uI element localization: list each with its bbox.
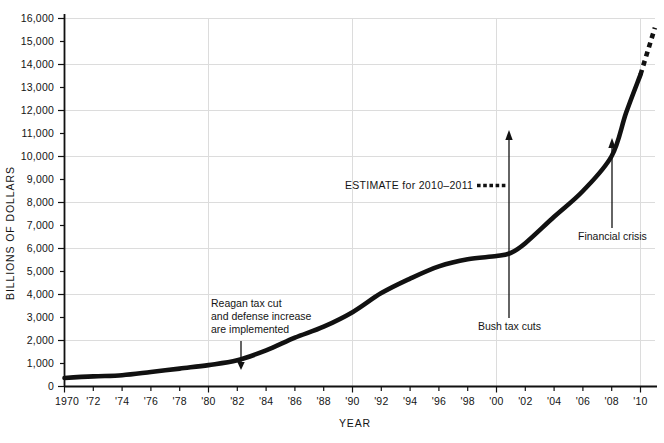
xlabel-1974: '74 [115, 395, 129, 407]
xlabel-2004: '04 [547, 395, 561, 407]
xlabel-2008: '08 [605, 395, 619, 407]
x-tick-labels-top: 1970 '72 '74 '76 '78 '80 '82 '84 '86 '88… [55, 395, 648, 407]
xlabel-2002: '02 [518, 395, 532, 407]
xlabel-1994: '94 [403, 395, 417, 407]
xlabel-1998: '98 [461, 395, 475, 407]
xlabel-1982: '82 [230, 395, 244, 407]
annotation-reagan-line1: Reagan tax cut [211, 297, 282, 309]
xlabel-1990: '90 [345, 395, 359, 407]
ylabel-16000: 16,000 [21, 12, 54, 24]
ylabel-14000: 14,000 [21, 58, 54, 70]
xlabel-1976: '76 [144, 395, 158, 407]
annotation-reagan-line3: are implemented [211, 323, 289, 335]
xlabel-1984: '84 [259, 395, 273, 407]
xlabel-1986: '86 [288, 395, 302, 407]
xlabel-1992: '92 [374, 395, 388, 407]
xlabel-1972: '72 [86, 395, 100, 407]
chart-plot-final [64, 14, 658, 387]
annotation-crisis-line1: Financial crisis [578, 230, 647, 242]
xlabel-1970: 1970 [55, 395, 79, 407]
ylabel-0: 0 [48, 380, 54, 392]
y-axis-title-label: BILLIONS OF DOLLARS [4, 166, 16, 300]
ylabel-10000: 10,000 [21, 150, 54, 162]
xlabel-1996: '96 [432, 395, 446, 407]
ylabel-13000: 13,000 [21, 81, 54, 93]
ylabel-6000: 6,000 [27, 242, 54, 254]
xlabel-1988: '88 [317, 395, 331, 407]
annotation-bush-line1: Bush tax cuts [478, 320, 541, 332]
legend-estimate-label: ESTIMATE for 2010–2011 [345, 179, 473, 191]
ylabel-3000: 3,000 [27, 311, 54, 323]
ylabel-12000: 12,000 [21, 104, 54, 116]
ylabel-1000: 1,000 [27, 357, 54, 369]
annotation-reagan-line2: and defense increase [211, 310, 312, 322]
ylabel-15000: 15,000 [21, 35, 54, 47]
xlabel-2006: '06 [576, 395, 590, 407]
ylabel-7000: 7,000 [27, 219, 54, 231]
ylabel-5000: 5,000 [27, 265, 54, 277]
ylabel-11000: 11,000 [21, 127, 54, 139]
xlabel-2000: '00 [489, 395, 503, 407]
xlabel-1978: '78 [173, 395, 187, 407]
x-axis-title-label: YEAR [339, 417, 371, 429]
ylabel-8000: 8,000 [27, 196, 54, 208]
ylabel-2000: 2,000 [27, 334, 54, 346]
ylabel-9000: 9,000 [27, 173, 54, 185]
chart-container: 16,000 15,000 14,000 13,000 12,000 11,00… [0, 0, 664, 443]
xlabel-1980: '80 [201, 395, 215, 407]
ylabel-4000: 4,000 [27, 288, 54, 300]
xlabel-2010: '10 [633, 395, 647, 407]
